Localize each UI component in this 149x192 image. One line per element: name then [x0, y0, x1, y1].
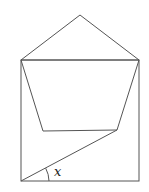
- angle-label-x: x: [54, 164, 62, 179]
- diagonal-segment: [21, 130, 117, 181]
- top-triangle-roof: [21, 15, 139, 60]
- angle-arc: [46, 168, 49, 181]
- square: [21, 60, 139, 181]
- inner-pentagon-sides: [21, 60, 139, 131]
- geometry-diagram: x: [0, 0, 149, 192]
